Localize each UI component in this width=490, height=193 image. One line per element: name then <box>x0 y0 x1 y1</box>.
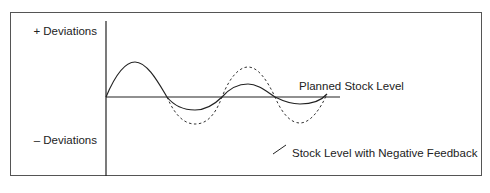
dashed-oscillation-curve <box>167 67 327 124</box>
stock-deviation-diagram: + Deviations – Deviations Planned Stock … <box>0 0 490 193</box>
negative-deviations-label: – Deviations <box>34 134 98 146</box>
negative-feedback-legend-label: Stock Level with Negative Feedback <box>292 147 478 159</box>
negative-feedback-curve <box>106 62 327 110</box>
planned-stock-level-label: Planned Stock Level <box>299 80 404 92</box>
legend-line-icon <box>273 145 286 154</box>
positive-deviations-label: + Deviations <box>33 25 97 37</box>
